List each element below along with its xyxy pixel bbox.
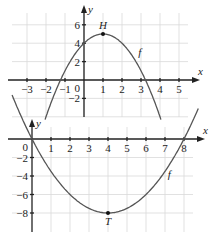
function-curve — [12, 95, 198, 213]
point-label: T — [105, 215, 112, 227]
x-axis-label: x — [197, 65, 203, 77]
y-axis-label: y — [87, 3, 93, 15]
x-tick-label: 5 — [176, 83, 182, 95]
x-tick-label: 7 — [162, 142, 168, 154]
y-tick-label: 2 — [75, 56, 81, 68]
y-tick-label: −4 — [16, 170, 28, 182]
x-tick-label: 5 — [124, 142, 130, 154]
origin-label: 0 — [75, 82, 81, 94]
x-tick-label: 3 — [86, 142, 92, 154]
origin-label: 0 — [23, 141, 29, 153]
function-label: f — [168, 168, 173, 180]
point-marker — [101, 32, 105, 36]
y-axis-label: y — [35, 117, 41, 129]
y-tick-label: −2 — [16, 152, 28, 164]
y-tick-label: −6 — [16, 189, 28, 201]
chart-2: xy12345678−2−4−6−80fT — [8, 95, 208, 232]
point-label: H — [98, 19, 108, 31]
x-tick-label: 6 — [143, 142, 149, 154]
x-axis-arrow-icon — [192, 77, 200, 83]
x-tick-label: 1 — [100, 83, 106, 95]
y-tick-label: −2 — [68, 92, 80, 104]
x-tick-label: 2 — [67, 142, 73, 154]
x-tick-label: 4 — [105, 142, 111, 154]
x-tick-label: 3 — [138, 83, 144, 95]
y-tick-label: 6 — [75, 19, 81, 31]
x-tick-label: 1 — [48, 142, 54, 154]
chart-canvas: xy−3−2−112345−22460fHxy12345678−2−4−6−80… — [0, 0, 216, 236]
function-label: f — [138, 46, 143, 58]
x-axis-label: x — [202, 124, 208, 136]
x-tick-label: 4 — [157, 83, 163, 95]
x-axis-arrow-icon — [197, 136, 205, 142]
x-tick-label: −3 — [21, 83, 33, 95]
x-tick-label: 2 — [119, 83, 125, 95]
chart-1: xy−3−2−112345−22460fH — [8, 3, 203, 120]
y-tick-label: −8 — [16, 207, 28, 219]
y-axis-arrow-icon — [29, 119, 35, 127]
y-axis-arrow-icon — [81, 5, 87, 13]
x-tick-label: −2 — [40, 83, 52, 95]
